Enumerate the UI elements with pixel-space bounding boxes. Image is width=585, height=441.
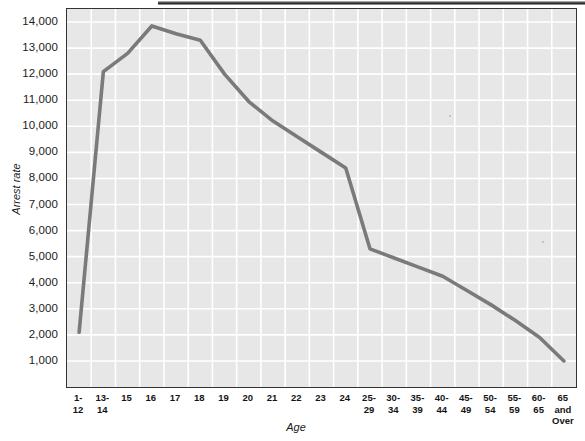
plot-area bbox=[66, 8, 577, 388]
x-axis-tick-label: 16 bbox=[146, 392, 157, 404]
y-axis-tick-label: 6,000 bbox=[29, 224, 58, 236]
x-axis-tick-label: 45- 49 bbox=[459, 392, 473, 415]
y-axis-tick-label: 1,000 bbox=[29, 354, 58, 366]
x-axis-tick-label: 40- 44 bbox=[435, 392, 449, 415]
scan-speck bbox=[542, 241, 544, 243]
x-axis-tick-label: 15 bbox=[121, 392, 132, 404]
scan-speck bbox=[449, 115, 451, 117]
y-axis-tick-label: 14,000 bbox=[22, 15, 58, 27]
x-axis-tick-label: 18 bbox=[194, 392, 205, 404]
y-axis-tick-label: 9,000 bbox=[29, 145, 58, 157]
y-axis-tick-label: 10,000 bbox=[22, 119, 58, 131]
y-axis-tick-label: 4,000 bbox=[29, 276, 58, 288]
x-axis-tick-label: 60- 65 bbox=[532, 392, 546, 415]
x-axis-tick-label: 1- 12 bbox=[73, 392, 84, 415]
x-axis-tick-label: 20 bbox=[242, 392, 253, 404]
y-axis-tick-labels: 1,0002,0003,0004,0005,0006,0007,0008,000… bbox=[0, 0, 62, 396]
data-series-line bbox=[67, 9, 576, 387]
x-axis-tick-label: 22 bbox=[291, 392, 302, 404]
x-axis-title: Age bbox=[286, 421, 306, 433]
x-axis-tick-label: 17 bbox=[170, 392, 181, 404]
x-axis-tick-label: 13- 14 bbox=[95, 392, 109, 415]
x-axis-tick-label: 35- 39 bbox=[411, 392, 425, 415]
x-axis-tick-label: 21 bbox=[267, 392, 278, 404]
x-axis-tick-label: 55- 59 bbox=[508, 392, 522, 415]
x-axis-tick-label: 30- 34 bbox=[386, 392, 400, 415]
x-axis-tick-label: 23 bbox=[315, 392, 326, 404]
y-axis-tick-label: 11,000 bbox=[23, 93, 58, 105]
x-axis-tick-label: 65 and Over bbox=[552, 392, 574, 427]
chart-figure: Arrest rate 1,0002,0003,0004,0005,0006,0… bbox=[0, 0, 585, 441]
y-axis-tick-label: 3,000 bbox=[29, 302, 58, 314]
x-axis-tick-label: 25- 29 bbox=[362, 392, 376, 415]
y-axis-tick-label: 7,000 bbox=[29, 198, 58, 210]
y-axis-tick-label: 2,000 bbox=[29, 328, 58, 340]
y-axis-tick-label: 12,000 bbox=[22, 67, 58, 79]
y-axis-tick-label: 5,000 bbox=[29, 250, 58, 262]
y-axis-tick-label: 13,000 bbox=[22, 41, 58, 53]
x-axis-tick-label: 19 bbox=[218, 392, 229, 404]
x-axis-tick-labels: 1- 1213- 141516171819202122232425- 2930-… bbox=[66, 392, 577, 426]
y-axis-tick-label: 8,000 bbox=[29, 171, 58, 183]
x-axis-tick-label: 24 bbox=[339, 392, 350, 404]
x-axis-tick-label: 50- 54 bbox=[483, 392, 497, 415]
